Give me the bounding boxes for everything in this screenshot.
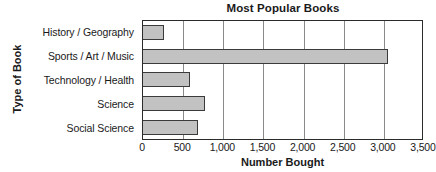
bar-row: [143, 45, 422, 69]
y-axis-tick-label: Sports / Art / Music: [14, 44, 138, 68]
bar-series: [143, 21, 422, 139]
bar-row: [143, 115, 422, 139]
x-axis-tick-label: 2,500: [330, 141, 355, 153]
x-axis-tick-label: 3,500: [410, 141, 435, 153]
y-axis-tick-label: Social Science: [14, 116, 138, 140]
bar: [142, 25, 164, 40]
y-axis-tick-label: History / Geography: [14, 20, 138, 44]
y-axis-tick-label: Technology / Health: [14, 68, 138, 92]
x-axis-tick-label: 500: [174, 141, 191, 153]
x-axis-title: Number Bought: [142, 156, 423, 168]
x-axis-tick-label: 0: [139, 141, 145, 153]
bar-row: [143, 92, 422, 116]
bar: [142, 120, 198, 135]
bar: [142, 96, 205, 111]
bar: [142, 49, 388, 64]
bar-row: [143, 21, 422, 45]
x-axis-tick-label: 2,000: [290, 141, 315, 153]
bar: [142, 72, 190, 87]
chart-title: Most Popular Books: [142, 1, 424, 15]
x-axis-tick-label: 3,000: [370, 141, 395, 153]
x-axis-tick-label: 1,000: [210, 141, 235, 153]
bar-row: [143, 68, 422, 92]
y-axis-tick-labels: History / GeographySports / Art / MusicT…: [14, 20, 138, 140]
y-axis-tick-label: Science: [14, 92, 138, 116]
x-axis-tick-labels: 05001,0001,5002,0002,5003,0003,500: [142, 141, 423, 155]
x-axis-tick-label: 1,500: [250, 141, 275, 153]
plot-area: [142, 20, 423, 140]
